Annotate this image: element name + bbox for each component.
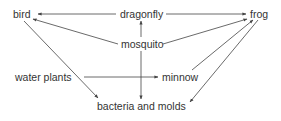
node-minnow: minnow <box>162 71 198 83</box>
food-web-diagram: bird dragonfly frog mosquito water plant… <box>0 0 281 121</box>
arrow-frog-to-bacteria <box>190 20 258 102</box>
node-bird: bird <box>13 8 31 20</box>
node-bacteria-and-molds: bacteria and molds <box>97 100 186 112</box>
node-frog: frog <box>250 8 268 20</box>
node-mosquito: mosquito <box>121 38 164 50</box>
arrow-bird-to-bacteria <box>24 21 98 98</box>
arrow-mosquito-to-frog <box>163 19 247 44</box>
arrow-mosquito-to-bird <box>33 19 118 44</box>
node-water-plants: water plants <box>15 71 72 83</box>
node-dragonfly: dragonfly <box>120 8 163 20</box>
